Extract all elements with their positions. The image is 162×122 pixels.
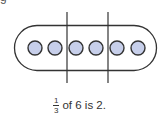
fraction-denominator: 3 — [53, 106, 59, 115]
circle-3 — [69, 41, 83, 55]
fraction-one-third: 1 3 — [53, 96, 59, 115]
circle-2 — [48, 41, 62, 55]
caption: 1 3 of 6 is 2. — [53, 93, 106, 117]
circle-5 — [110, 41, 124, 55]
circle-1 — [28, 41, 42, 55]
fraction-diagram — [0, 0, 162, 90]
caption-text: of 6 is 2. — [62, 99, 105, 111]
circle-4 — [89, 41, 103, 55]
fraction-numerator: 1 — [53, 96, 59, 106]
circle-6 — [131, 41, 145, 55]
